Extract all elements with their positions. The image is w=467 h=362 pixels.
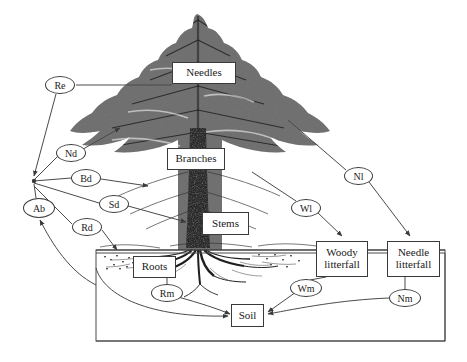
flux-node-wl[interactable]: Wl (291, 199, 321, 217)
flux-node-nl-label: Nl (354, 171, 364, 182)
compartment-branches-label: Branches (176, 153, 217, 165)
flux-diagram: Needles Branches Stems Roots Woody litte… (0, 0, 467, 362)
compartment-needle-litterfall[interactable]: Needle litterfall (387, 241, 440, 277)
flux-node-wl-label: Wl (300, 203, 312, 214)
flux-node-nd[interactable]: Nd (56, 144, 86, 162)
flux-node-sd[interactable]: Sd (99, 195, 129, 213)
compartment-woody-litterfall[interactable]: Woody litterfall (316, 241, 368, 277)
allocation-junction (32, 179, 36, 183)
compartment-soil[interactable]: Soil (231, 304, 264, 327)
flux-node-bd[interactable]: Bd (71, 169, 101, 187)
flux-node-ab-label: Ab (33, 203, 45, 214)
compartment-woody-litterfall-label-line2: litterfall (324, 259, 359, 271)
edge-branches-to-wl (252, 172, 296, 201)
flux-node-re[interactable]: Re (45, 76, 75, 94)
compartment-stems[interactable]: Stems (202, 212, 249, 235)
flux-node-wm-label: Wm (297, 283, 314, 294)
flux-node-rm[interactable]: Rm (151, 284, 183, 302)
edge-nl-to-needle-litterfall (369, 182, 410, 236)
flux-node-nm-label: Nm (398, 293, 413, 304)
flux-node-ab[interactable]: Ab (23, 198, 55, 218)
edge-wl-to-woody-litterfall (317, 212, 342, 236)
compartment-branches[interactable]: Branches (167, 148, 225, 170)
edge-bd-to-junction (34, 178, 71, 181)
flux-node-wm[interactable]: Wm (290, 279, 322, 297)
flux-node-rd-label: Rd (81, 222, 93, 233)
compartment-soil-label: Soil (239, 310, 257, 322)
edge-sd-to-stems (128, 206, 186, 222)
edge-bd-to-branches (101, 179, 148, 186)
edge-wm-to-soil (268, 292, 296, 312)
flux-node-nm[interactable]: Nm (389, 289, 421, 307)
edge-canopy-to-nl (288, 120, 346, 170)
flux-node-sd-label: Sd (109, 199, 120, 210)
compartment-needles[interactable]: Needles (172, 62, 236, 84)
flux-node-bd-label: Bd (80, 173, 92, 184)
compartment-roots-label: Roots (142, 261, 168, 273)
edge-rd-to-roots (102, 230, 117, 250)
compartment-needle-litterfall-label-line2: litterfall (396, 259, 431, 271)
compartment-needles-label: Needles (186, 67, 221, 79)
flux-node-rm-label: Rm (160, 288, 174, 299)
flux-node-nl[interactable]: Nl (344, 167, 373, 185)
flux-node-nd-label: Nd (65, 148, 77, 159)
compartment-stems-label: Stems (212, 218, 239, 230)
flux-node-re-label: Re (54, 80, 65, 91)
compartment-roots[interactable]: Roots (133, 256, 176, 278)
edge-nd-to-junction (34, 157, 57, 180)
edge-junction-to-ab (34, 184, 36, 198)
edge-re-to-junction (34, 94, 56, 176)
edge-nm-to-soil (268, 298, 389, 314)
edge-rm-to-soil (178, 297, 230, 314)
flux-node-rd[interactable]: Rd (72, 218, 102, 236)
